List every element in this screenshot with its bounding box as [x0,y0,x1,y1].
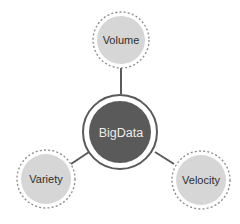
node-volume: Volume [93,12,149,68]
center-label: BigData [99,126,144,140]
bigdata-diagram: Volume Variety Velocity BigData [0,0,240,224]
node-center-bigdata: BigData [83,95,157,169]
node-volume-label: Volume [103,34,140,46]
connector-variety [71,152,89,164]
node-velocity: Velocity [172,151,230,209]
node-velocity-label: Velocity [182,174,220,186]
node-variety-label: Variety [29,173,63,185]
connector-velocity [155,152,174,164]
node-variety: Variety [17,150,75,208]
